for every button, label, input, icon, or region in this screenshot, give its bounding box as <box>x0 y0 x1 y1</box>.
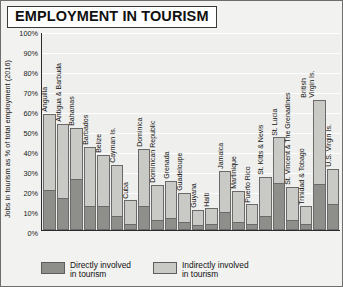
bar-segment-indirect <box>260 178 271 216</box>
bar-column[interactable]: Guadeloupe <box>178 33 191 230</box>
bar-segment-indirect <box>328 170 339 204</box>
stacked-bar[interactable] <box>124 200 137 230</box>
stacked-bar[interactable] <box>273 137 286 230</box>
stacked-bar[interactable] <box>327 169 340 230</box>
bar-segment-direct <box>85 206 96 229</box>
bar-segment-direct <box>220 212 231 229</box>
plot-area: AnguillaAntigua & BarbudaBahamasBarbados… <box>41 33 340 231</box>
legend-label-indirect: Indirectly involved in tourism <box>182 261 249 281</box>
bar-column[interactable]: Bahamas <box>70 33 83 230</box>
bar-category-label: Haiti <box>203 192 211 206</box>
bar-category-label: Grenada <box>163 152 171 179</box>
legend-item-direct: Directly involved in tourism <box>41 261 131 281</box>
bar-column[interactable]: Antigua & Barbuda <box>57 33 70 230</box>
bar-segment-direct <box>233 222 244 229</box>
chart-page: EMPLOYMENT IN TOURISM Jobs in tourism as… <box>0 0 343 287</box>
bar-column[interactable]: Dominican Republic <box>151 33 164 230</box>
bar-column[interactable]: Trinidad & Tobago <box>300 33 313 230</box>
stacked-bar[interactable] <box>246 204 259 230</box>
bar-column[interactable]: St. Lucia <box>273 33 286 230</box>
stacked-bar[interactable] <box>178 193 191 230</box>
bar-category-label: Bahamas <box>68 96 76 126</box>
bar-category-label: Cayman Is. <box>109 128 117 163</box>
bar-segment-direct <box>206 224 217 229</box>
bar-segment-indirect <box>58 125 69 198</box>
bar-category-label: Guyana <box>190 184 198 209</box>
bar-column[interactable]: St. Kitts & Nevis <box>259 33 272 230</box>
bar-column[interactable]: Puerto Rico <box>246 33 259 230</box>
bar-category-label: Belize <box>95 134 103 153</box>
bar-column[interactable]: St. Vincent & The Grenadines <box>286 33 299 230</box>
bar-column[interactable]: Dominica <box>138 33 151 230</box>
bar-segment-indirect <box>85 148 96 206</box>
stacked-bar[interactable] <box>259 177 272 230</box>
y-axis-tick-label: 40% <box>23 149 38 158</box>
bar-column[interactable]: Guyana <box>192 33 205 230</box>
bar-segment-direct <box>139 206 150 229</box>
stacked-bar[interactable] <box>219 171 232 230</box>
stacked-bar[interactable] <box>192 210 205 230</box>
chart-title-box: EMPLOYMENT IN TOURISM <box>7 6 217 28</box>
stacked-bar[interactable] <box>70 128 83 230</box>
bar-segment-indirect <box>287 188 298 220</box>
bar-column[interactable]: Cuba <box>124 33 137 230</box>
bar-column[interactable]: Cayman Is. <box>111 33 124 230</box>
bar-segment-indirect <box>301 207 312 223</box>
bar-column[interactable]: Belize <box>97 33 110 230</box>
bar-category-label: Trinidad & Tobago <box>298 148 306 204</box>
plot-area-wrapper: Jobs in tourism as % of total employment… <box>1 29 342 248</box>
y-axis-title: Jobs in tourism as % of total employment… <box>0 29 13 248</box>
stacked-bar[interactable] <box>300 206 313 230</box>
bar-segment-direct <box>314 184 325 229</box>
bar-segment-indirect <box>112 166 123 216</box>
stacked-bar[interactable] <box>151 185 164 230</box>
stacked-bar[interactable] <box>205 208 218 230</box>
bar-column[interactable]: Grenada <box>165 33 178 230</box>
bar-segment-indirect <box>314 101 325 184</box>
stacked-bar[interactable] <box>43 114 56 230</box>
legend-item-indirect: Indirectly involved in tourism <box>153 261 249 281</box>
bar-segment-direct <box>125 224 136 230</box>
y-axis-tick-label: 80% <box>23 69 38 78</box>
bar-column[interactable]: Anguilla <box>43 33 56 230</box>
bar-column[interactable]: U.S. Virgin Is. <box>327 33 340 230</box>
stacked-bar[interactable] <box>232 191 245 230</box>
bar-category-label: Guadeloupe <box>176 152 184 190</box>
stacked-bar[interactable] <box>165 181 178 230</box>
bar-category-label: St. Kitts & Nevis <box>257 125 265 175</box>
y-axis-tick-label: 90% <box>23 49 38 58</box>
stacked-bar[interactable] <box>313 100 326 230</box>
bar-segment-direct <box>44 190 55 229</box>
bar-column[interactable]: Martinique <box>232 33 245 230</box>
bar-segment-indirect <box>206 209 217 223</box>
bar-segment-direct <box>71 179 82 229</box>
bar-segment-indirect <box>247 205 258 223</box>
bar-segment-indirect <box>71 129 82 179</box>
bar-category-label: U.S. Virgin Is. <box>325 124 333 167</box>
bar-segment-indirect <box>193 211 204 225</box>
bar-category-label: Martinique <box>230 156 238 189</box>
bar-column[interactable]: Barbados <box>84 33 97 230</box>
bar-segment-direct <box>112 216 123 229</box>
stacked-bar[interactable] <box>97 155 110 230</box>
bar-column[interactable]: BritishVirgin Is. <box>313 33 326 230</box>
stacked-bar[interactable] <box>84 147 97 230</box>
bar-category-label: Anguilla <box>41 87 49 112</box>
bar-column[interactable]: Haiti <box>205 33 218 230</box>
stacked-bar[interactable] <box>286 187 299 230</box>
bar-segment-direct <box>301 224 312 229</box>
chart-legend: Directly involved in tourism Indirectly … <box>41 261 338 281</box>
bar-segment-direct <box>166 218 177 229</box>
stacked-bar[interactable] <box>138 149 151 230</box>
bar-category-label: Cuba <box>122 182 130 199</box>
y-axis-tick-label: 10% <box>23 209 38 218</box>
bar-category-label: Jamaica <box>217 143 225 169</box>
bar-segment-direct <box>58 198 69 229</box>
bar-category-label: Dominica <box>136 118 144 147</box>
bar-column[interactable]: Jamaica <box>219 33 232 230</box>
stacked-bar[interactable] <box>111 165 124 230</box>
y-axis-tick-label: 50% <box>23 129 38 138</box>
bar-category-label: Antigua & Barbuda <box>55 63 63 122</box>
y-axis-tick-label: 70% <box>23 89 38 98</box>
stacked-bar[interactable] <box>57 124 70 230</box>
